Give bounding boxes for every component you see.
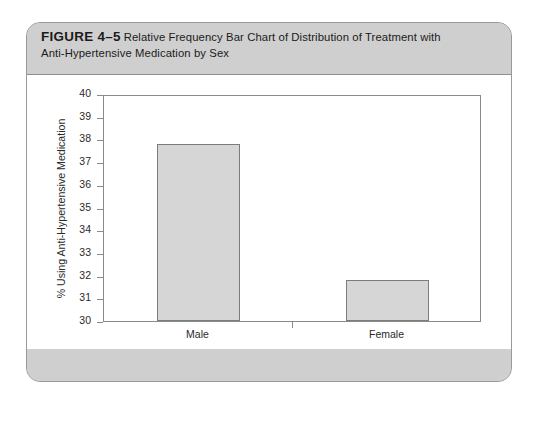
bar-female bbox=[346, 280, 429, 321]
bar-male bbox=[157, 144, 240, 321]
y-axis-tick-label: 31 bbox=[79, 291, 91, 303]
y-axis-tick-label: 37 bbox=[79, 155, 91, 167]
y-axis-tick-label: 38 bbox=[79, 132, 91, 144]
y-axis-tick-label: 36 bbox=[79, 178, 91, 190]
y-axis-title: % Using Anti-Hypertensive Medication bbox=[54, 95, 68, 322]
figure-card: FIGURE 4–5Relative Frequency Bar Chart o… bbox=[26, 22, 512, 382]
plot-frame bbox=[103, 95, 481, 322]
y-axis-tick-label: 30 bbox=[79, 314, 91, 326]
y-axis-tick-label: 33 bbox=[79, 246, 91, 258]
x-axis-center-tick bbox=[292, 322, 293, 328]
y-axis-tick-label: 34 bbox=[79, 223, 91, 235]
y-axis-tick-mark bbox=[97, 322, 103, 323]
figure-caption-text-line1: Relative Frequency Bar Chart of Distribu… bbox=[124, 31, 441, 43]
y-axis-tick-label: 39 bbox=[79, 110, 91, 122]
figure-footer-band bbox=[27, 349, 511, 381]
plot-wrapper: % Using Anti-Hypertensive Medication 403… bbox=[27, 75, 512, 351]
x-axis-tick-label: Female bbox=[327, 328, 447, 340]
figure-caption-band: FIGURE 4–5Relative Frequency Bar Chart o… bbox=[27, 23, 511, 74]
figure-caption-first-line: FIGURE 4–5Relative Frequency Bar Chart o… bbox=[41, 29, 497, 46]
x-axis-tick-label: Male bbox=[138, 328, 258, 340]
y-axis-tick-label: 32 bbox=[79, 269, 91, 281]
y-axis-tick-label: 35 bbox=[79, 201, 91, 213]
y-axis-tick-label: 40 bbox=[79, 87, 91, 99]
figure-number-label: FIGURE 4–5 bbox=[41, 29, 121, 44]
chart-panel: % Using Anti-Hypertensive Medication 403… bbox=[27, 74, 511, 350]
figure-caption-second-line: Anti-Hypertensive Medication by Sex bbox=[41, 46, 497, 62]
